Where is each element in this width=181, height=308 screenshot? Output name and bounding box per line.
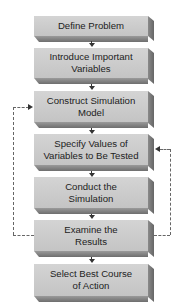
step-label: Define Problem: [58, 20, 124, 32]
step-label-line1: Specify Values of: [54, 138, 127, 150]
step-face: Define Problem: [34, 16, 148, 36]
step-label-line2: Variables: [71, 63, 110, 75]
step-select-best-action: Select Best Course of Action: [34, 264, 148, 302]
step-label-line2: Results: [75, 236, 107, 248]
step-specify-values: Specify Values of Variables to Be Tested: [34, 134, 148, 171]
step-label-line2: Simulation: [69, 193, 114, 205]
down-arrow-icon: [89, 259, 95, 263]
loop-left-vertical-segment: [13, 107, 14, 235]
step-face: Examine the Results: [34, 220, 148, 251]
loop-right-vertical-segment: [170, 149, 171, 235]
arrow-right-icon: [28, 104, 33, 110]
step-side: [148, 91, 154, 128]
step-label-line1: Select Best Course: [50, 268, 132, 280]
step-label-line1: Examine the: [64, 224, 117, 236]
step-bottom: [34, 296, 148, 302]
step-label-line2: Variables to Be Tested: [43, 150, 138, 162]
loop-left-bottom-segment: [13, 235, 34, 236]
step-side: [148, 264, 154, 302]
step-face: Select Best Course of Action: [34, 264, 148, 296]
step-side: [148, 177, 154, 214]
step-face: Conduct the Simulation: [34, 177, 148, 208]
step-conduct-simulation: Conduct the Simulation: [34, 177, 148, 214]
step-label-line2: Model: [78, 107, 104, 119]
step-label-line1: Conduct the: [65, 181, 117, 193]
step-introduce-variables: Introduce Important Variables: [34, 48, 148, 84]
step-label-line2: of Action: [73, 280, 110, 292]
step-construct-model: Construct Simulation Model: [34, 91, 148, 128]
step-face: Introduce Important Variables: [34, 48, 148, 78]
step-label-line1: Introduce Important: [49, 51, 132, 63]
step-face: Specify Values of Variables to Be Tested: [34, 134, 148, 165]
down-arrow-icon: [89, 43, 95, 47]
step-side: [148, 134, 154, 171]
down-arrow-icon: [89, 215, 95, 219]
arrow-left-icon: [155, 146, 160, 152]
step-label-line1: Construct Simulation: [47, 95, 136, 107]
down-arrow-icon: [89, 86, 95, 90]
step-side: [148, 220, 154, 257]
loop-left-top-segment: [13, 107, 29, 108]
step-side: [148, 48, 154, 84]
step-examine-results: Examine the Results: [34, 220, 148, 257]
loop-right-top-segment: [160, 149, 170, 150]
step-side: [148, 16, 154, 41]
loop-right-bottom-segment: [154, 235, 170, 236]
step-define-problem: Define Problem: [34, 16, 148, 41]
step-face: Construct Simulation Model: [34, 91, 148, 122]
